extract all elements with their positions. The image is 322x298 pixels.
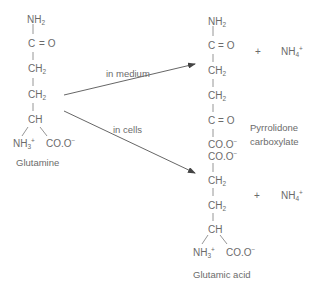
bond <box>220 235 227 244</box>
glutamic-acid-label: Glutamic acid <box>193 269 251 281</box>
glutamic-coo-top: CO.O− <box>208 151 237 162</box>
glutamine-ch2-2: CH2 <box>28 89 46 100</box>
glutamic-nh3: NH3+ <box>193 247 215 258</box>
pyrrolidone-label-line2: carboxylate <box>250 136 299 148</box>
glutamic-ch2-1: CH2 <box>208 175 226 186</box>
glutamine-coo: CO.O− <box>46 138 75 149</box>
pyrrolidone-ch2-1: CH2 <box>208 65 226 76</box>
arrow-in-cells <box>64 111 195 173</box>
glutamine-nh3: NH3+ <box>13 138 35 149</box>
glutamine-ch: CH <box>28 114 42 125</box>
bond <box>22 127 28 136</box>
bond <box>40 127 47 136</box>
glutamic-ch: CH <box>208 224 222 235</box>
in-cells-label: in cells <box>113 124 142 136</box>
ammonium-2: NH4+ <box>281 190 303 201</box>
glutamic-coo-bottom: CO.O− <box>226 247 255 258</box>
pyrrolidone-carbonyl-2: C = O <box>208 115 234 126</box>
pyrrolidone-nh2: NH2 <box>208 16 226 27</box>
glutamine-nh2: NH2 <box>27 14 45 25</box>
pyrrolidone-carbonyl-1: C = O <box>208 40 234 51</box>
plus-sign-2: + <box>254 190 260 201</box>
glutamine-label: Glutamine <box>16 157 59 169</box>
ammonium-1: NH4+ <box>281 46 303 57</box>
pyrrolidone-ch2-2: CH2 <box>208 90 226 101</box>
pyrrolidone-label-line1: Pyrrolidone <box>250 122 298 134</box>
bond <box>202 235 208 244</box>
glutamine-carbonyl: C = O <box>28 38 55 49</box>
glutamic-ch2-2: CH2 <box>208 200 226 211</box>
pyrrolidone-coo: CO.O− <box>208 139 237 150</box>
plus-sign-1: + <box>255 46 261 57</box>
in-medium-label: in medium <box>106 68 150 80</box>
glutamine-ch2-1: CH2 <box>28 63 46 74</box>
